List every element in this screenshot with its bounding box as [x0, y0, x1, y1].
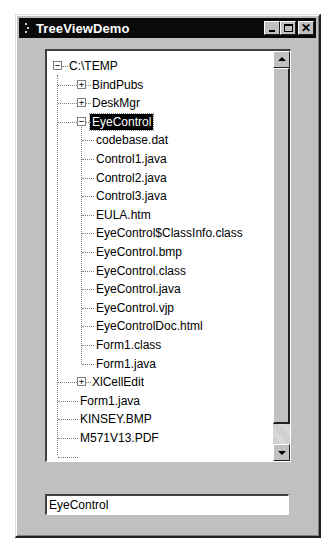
tree-node-label: EyeControl.class	[94, 263, 188, 279]
tree-connector	[86, 85, 91, 86]
tree-node-file[interactable]: EyeControl.class	[47, 262, 188, 280]
tree-node-file[interactable]: EyeControlDoc.html	[47, 317, 205, 335]
arrow-down-icon	[278, 451, 286, 455]
app-icon	[23, 21, 33, 35]
tree-connector	[58, 85, 77, 86]
tree-node-label: Control3.java	[94, 188, 169, 204]
treeview-demo-window: TreeViewDemo ✕ − C:\TEMP +BindPubs+DeskM…	[15, 14, 321, 538]
tree-node-folder[interactable]: +DeskMgr	[47, 94, 142, 112]
expand-icon[interactable]: +	[77, 377, 86, 386]
tree-connector	[58, 419, 78, 420]
tree-node-file[interactable]: Control2.java	[47, 169, 169, 187]
tree-node-file[interactable]: KINSEY.BMP	[47, 410, 154, 428]
tree-node-label: EyeControlDoc.html	[94, 318, 205, 334]
tree-connector	[82, 159, 94, 160]
tree-connector	[58, 122, 77, 123]
minimize-button[interactable]	[264, 21, 280, 35]
close-button[interactable]: ✕	[298, 21, 314, 35]
tree-node-file[interactable]: Form1.java	[47, 355, 158, 373]
scroll-up-button[interactable]	[273, 51, 290, 68]
tree-node-file[interactable]: EyeControl$ClassInfo.class	[47, 224, 245, 242]
title-bar[interactable]: TreeViewDemo ✕	[19, 18, 316, 38]
tree-node-label: Form1.java	[94, 356, 158, 372]
tree-connector	[82, 308, 94, 309]
tree-node-file[interactable]: EULA.htm	[47, 206, 153, 224]
tree-node-label: Form1.java	[78, 393, 142, 409]
tree-node-label: C:\TEMP	[67, 58, 120, 74]
tree-node-label: XlCellEdit	[90, 374, 146, 390]
selected-node-field[interactable]	[45, 494, 289, 515]
collapse-icon[interactable]: −	[77, 117, 86, 126]
tree-connector	[82, 233, 94, 234]
tree-connector	[62, 66, 68, 67]
tree-node-folder[interactable]: +BindPubs	[47, 76, 145, 94]
window-title: TreeViewDemo	[36, 21, 129, 36]
close-icon: ✕	[299, 21, 313, 35]
tree-node-label: codebase.dat	[94, 132, 170, 148]
tree-node-label: EyeControl	[90, 114, 153, 130]
tree-node-label: Control2.java	[94, 170, 169, 186]
tree-connector	[58, 438, 78, 439]
tree-connector	[86, 382, 91, 383]
tree-connector	[58, 457, 78, 458]
tree-connector	[82, 364, 94, 365]
tree-connector	[82, 345, 94, 346]
tree-connector	[58, 382, 77, 383]
tree-content: − C:\TEMP +BindPubs+DeskMgr−EyeControlco…	[47, 51, 273, 461]
tree-node-folder[interactable]: +XlCellEdit	[47, 373, 146, 391]
tree-view[interactable]: − C:\TEMP +BindPubs+DeskMgr−EyeControlco…	[45, 49, 291, 462]
tree-node-root[interactable]: − C:\TEMP	[47, 57, 120, 75]
scrollbar-thumb[interactable]	[273, 68, 290, 424]
tree-node-label: Form1.class	[94, 337, 163, 353]
arrow-up-icon	[278, 57, 286, 61]
tree-connector	[82, 289, 94, 290]
tree-node-label: EyeControl$ClassInfo.class	[94, 225, 245, 241]
tree-connector	[82, 271, 94, 272]
minimize-icon	[269, 30, 275, 32]
tree-node-label: EyeControl.bmp	[94, 244, 184, 260]
tree-connector	[82, 326, 94, 327]
tree-node-file[interactable]: Form1.java	[47, 392, 142, 410]
tree-node-file[interactable]: EyeControl.java	[47, 280, 183, 298]
tree-node-file[interactable]: M571V13.PDF	[47, 429, 161, 447]
collapse-icon[interactable]: −	[53, 61, 62, 70]
tree-node-file[interactable]: EyeControl.vjp	[47, 299, 176, 317]
tree-node-label: ...	[78, 459, 92, 461]
tree-node-label: EyeControl.java	[94, 281, 183, 297]
tree-node-label: BindPubs	[90, 77, 145, 93]
tree-connector	[86, 103, 91, 104]
expand-icon[interactable]: +	[77, 98, 86, 107]
tree-node-file[interactable]: codebase.dat	[47, 131, 170, 149]
tree-node-file[interactable]: Control3.java	[47, 187, 169, 205]
tree-node-label: EULA.htm	[94, 207, 153, 223]
tree-node-label: EyeControl.vjp	[94, 300, 176, 316]
tree-connector	[82, 140, 94, 141]
tree-node-label: Control1.java	[94, 151, 169, 167]
tree-connector	[82, 252, 94, 253]
tree-connector	[82, 178, 94, 179]
tree-connector	[82, 215, 94, 216]
vertical-scrollbar[interactable]	[273, 51, 290, 461]
tree-node-label: KINSEY.BMP	[78, 411, 154, 427]
tree-node-file[interactable]: Form1.class	[47, 336, 163, 354]
tree-connector	[58, 103, 77, 104]
maximize-button[interactable]	[280, 21, 296, 35]
tree-connector	[82, 196, 94, 197]
tree-node-label: M571V13.PDF	[78, 430, 161, 446]
tree-node-folder[interactable]: −EyeControl	[47, 113, 153, 131]
tree-node-file[interactable]: EyeControl.bmp	[47, 243, 184, 261]
tree-node-file[interactable]: ...	[47, 448, 92, 461]
expand-icon[interactable]: +	[77, 80, 86, 89]
tree-connector	[86, 122, 91, 123]
tree-node-file[interactable]: Control1.java	[47, 150, 169, 168]
tree-connector	[58, 401, 78, 402]
tree-node-label: DeskMgr	[90, 95, 142, 111]
maximize-icon	[284, 24, 293, 32]
scroll-down-button[interactable]	[273, 444, 290, 461]
